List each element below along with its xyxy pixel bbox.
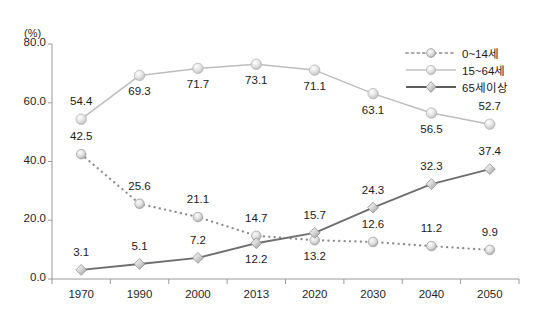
- data-point-marker: [134, 259, 145, 270]
- data-point-marker: [368, 202, 379, 213]
- legend-marker-solid-diamond-icon: [404, 79, 458, 95]
- data-point-marker: [76, 149, 86, 159]
- x-tick-label: 1990: [110, 288, 170, 300]
- data-point-marker: [193, 63, 203, 73]
- legend-marker-dotted-circle-icon: [404, 45, 458, 61]
- data-point-value-label: 73.1: [233, 74, 279, 86]
- data-point-value-label: 63.1: [350, 104, 396, 116]
- data-point-value-label: 69.3: [117, 85, 163, 97]
- data-point-marker: [76, 114, 86, 124]
- data-point-value-label: 21.1: [175, 193, 221, 205]
- x-tick-label: 2050: [460, 288, 520, 300]
- y-tick-label: 40.0: [4, 154, 46, 166]
- data-point-marker: [309, 65, 319, 75]
- legend-marker-solid-circle-icon: [404, 62, 458, 78]
- legend-label-15-64: 15~64세: [458, 62, 505, 78]
- data-point-value-label: 5.1: [117, 240, 163, 252]
- y-tick-label: 60.0: [4, 95, 46, 107]
- x-tick-label: 2000: [168, 288, 228, 300]
- data-point-value-label: 71.1: [292, 80, 338, 92]
- data-point-value-label: 42.5: [58, 130, 104, 142]
- data-point-value-label: 13.2: [292, 250, 338, 262]
- legend-label-65-plus: 65세이상: [458, 79, 508, 95]
- data-point-marker: [426, 108, 436, 118]
- data-point-value-label: 56.5: [408, 123, 454, 135]
- data-point-marker: [135, 199, 145, 209]
- data-point-value-label: 37.4: [467, 145, 513, 157]
- data-point-marker: [484, 164, 495, 175]
- population-age-structure-chart: (%) 0.020.040.060.080.0 1970199020002013…: [0, 0, 537, 323]
- x-tick-label: 2040: [401, 288, 461, 300]
- legend-item-15-64[interactable]: 15~64세: [404, 61, 532, 78]
- data-point-marker: [426, 179, 437, 190]
- x-tick-label: 2030: [343, 288, 403, 300]
- data-point-marker: [193, 252, 204, 263]
- y-tick-label: 80.0: [4, 36, 46, 48]
- data-point-value-label: 15.7: [292, 209, 338, 221]
- data-point-value-label: 14.7: [233, 212, 279, 224]
- data-point-value-label: 7.2: [175, 234, 221, 246]
- data-point-marker: [485, 119, 495, 129]
- data-point-value-label: 3.1: [58, 246, 104, 258]
- data-point-value-label: 52.7: [467, 100, 513, 112]
- data-point-marker: [134, 70, 144, 80]
- y-tick-label: 0.0: [4, 271, 46, 283]
- data-point-marker: [368, 88, 378, 98]
- legend-item-65-plus[interactable]: 65세이상: [404, 78, 532, 95]
- data-point-marker: [485, 245, 495, 255]
- data-point-marker: [251, 59, 261, 69]
- data-point-marker: [76, 264, 87, 275]
- legend-label-0-14: 0~14세: [458, 45, 499, 61]
- data-point-value-label: 32.3: [408, 160, 454, 172]
- data-point-value-label: 25.6: [117, 180, 163, 192]
- x-tick-label: 1970: [51, 288, 111, 300]
- data-point-marker: [193, 212, 203, 222]
- y-tick-label: 20.0: [4, 212, 46, 224]
- data-point-marker: [427, 241, 437, 251]
- data-point-marker: [368, 237, 378, 247]
- data-point-value-label: 71.7: [175, 78, 221, 90]
- chart-legend: 0~14세 15~64세 65세이상: [404, 44, 532, 95]
- legend-item-0-14[interactable]: 0~14세: [404, 44, 532, 61]
- data-point-value-label: 54.4: [58, 95, 104, 107]
- x-tick-label: 2013: [226, 288, 286, 300]
- data-point-value-label: 12.2: [233, 253, 279, 265]
- data-point-value-label: 9.9: [467, 226, 513, 238]
- data-point-value-label: 24.3: [350, 184, 396, 196]
- data-point-value-label: 11.2: [408, 222, 454, 234]
- data-point-value-label: 12.6: [350, 218, 396, 230]
- x-tick-label: 2020: [285, 288, 345, 300]
